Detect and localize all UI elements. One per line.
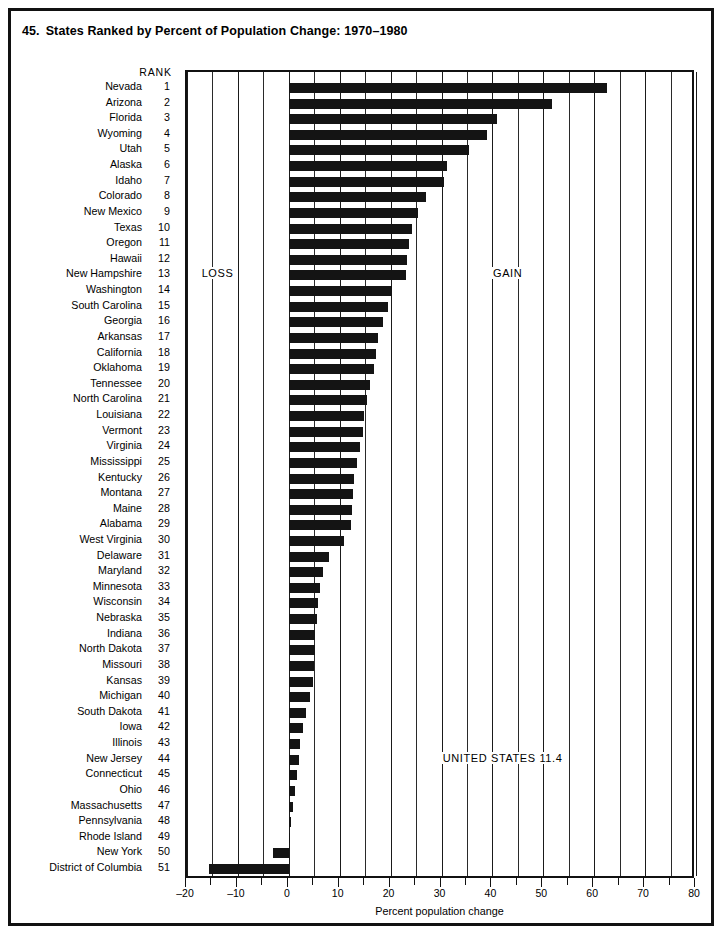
row-label: Hawaii12 (0, 252, 176, 265)
row-label: Nebraska35 (0, 611, 176, 624)
bar-maryland (289, 567, 323, 577)
bar-new-mexico (289, 208, 418, 218)
state-rank: 49 (148, 830, 170, 843)
state-rank: 26 (148, 471, 170, 484)
state-rank: 16 (148, 314, 170, 327)
state-name: Texas (114, 221, 142, 234)
bar-montana (289, 489, 354, 499)
x-tick-label-10: 10 (332, 887, 344, 899)
state-name: Alaska (110, 158, 142, 171)
x-axis-label: Percent population change (185, 905, 694, 917)
x-tick-label-60: 60 (586, 887, 598, 899)
state-rank: 10 (148, 221, 170, 234)
category-label-column: Nevada1Arizona2Florida3Wyoming4Utah5Alas… (0, 78, 176, 878)
bar-maine (289, 505, 353, 515)
state-rank: 36 (148, 627, 170, 640)
row-label: California18 (0, 346, 176, 359)
state-rank: 38 (148, 658, 170, 671)
state-name: Kansas (106, 674, 142, 687)
x-tick-15 (363, 878, 364, 885)
state-name: Virginia (107, 439, 142, 452)
state-name: District of Columbia (49, 861, 142, 874)
row-label: Colorado8 (0, 189, 176, 202)
state-name: Minnesota (93, 580, 142, 593)
row-label: Michigan40 (0, 689, 176, 702)
state-rank: 48 (148, 814, 170, 827)
row-label: Alaska6 (0, 158, 176, 171)
state-name: New York (97, 845, 142, 858)
bar-oklahoma (289, 364, 375, 374)
row-label: Wyoming4 (0, 127, 176, 140)
state-rank: 13 (148, 267, 170, 280)
state-rank: 28 (148, 502, 170, 515)
bar-north-dakota (289, 645, 315, 655)
state-name: Vermont (102, 424, 142, 437)
state-name: North Dakota (79, 642, 142, 655)
bar-georgia (289, 317, 384, 327)
state-rank: 25 (148, 455, 170, 468)
bar-kansas (289, 677, 313, 687)
bar-connecticut (289, 770, 298, 780)
state-rank: 14 (148, 283, 170, 296)
state-name: North Carolina (73, 392, 142, 405)
bar-idaho (289, 177, 444, 187)
x-tick-60 (592, 878, 593, 887)
row-label: Nevada1 (0, 80, 176, 93)
row-label: Iowa42 (0, 720, 176, 733)
plot-area: LOSS GAIN UNITED STATES 11.4 (185, 70, 694, 878)
state-name: Rhode Island (79, 830, 142, 843)
bar-indiana (289, 630, 315, 640)
x-tick-5 (312, 878, 313, 885)
x-tick-label--20: –20 (176, 887, 194, 899)
state-name: Michigan (99, 689, 142, 702)
x-tick-50 (541, 878, 542, 887)
bar-ohio (289, 786, 295, 796)
bar-illinois (289, 739, 300, 749)
annotation-loss: LOSS (199, 267, 237, 279)
rank-column-header: RANK (0, 66, 172, 78)
x-tick-45 (516, 878, 517, 885)
state-name: Delaware (97, 549, 142, 562)
state-name: Illinois (112, 736, 142, 749)
state-rank: 8 (148, 189, 170, 202)
x-tick-label-50: 50 (535, 887, 547, 899)
row-label: Oklahoma19 (0, 361, 176, 374)
row-label: Texas10 (0, 221, 176, 234)
figure-title-text: States Ranked by Percent of Population C… (46, 24, 408, 38)
state-name: New Jersey (86, 752, 142, 765)
bar-washington (289, 286, 392, 296)
state-name: Ohio (119, 783, 142, 796)
bar-kentucky (289, 474, 355, 484)
state-name: Indiana (107, 627, 142, 640)
row-label: New Hampshire13 (0, 267, 176, 280)
bar-michigan (289, 692, 310, 702)
bar-hawaii (289, 255, 408, 265)
row-label: Kentucky26 (0, 471, 176, 484)
bar-north-carolina (289, 395, 367, 405)
state-rank: 18 (148, 346, 170, 359)
state-name: Oregon (106, 236, 142, 249)
state-rank: 45 (148, 767, 170, 780)
state-rank: 33 (148, 580, 170, 593)
state-name: Montana (100, 486, 142, 499)
state-name: Kentucky (98, 471, 142, 484)
bar-delaware (289, 552, 329, 562)
state-rank: 47 (148, 799, 170, 812)
row-label: Illinois43 (0, 736, 176, 749)
state-rank: 27 (148, 486, 170, 499)
row-label: Montana27 (0, 486, 176, 499)
bar-louisiana (289, 411, 364, 421)
state-rank: 4 (148, 127, 170, 140)
state-name: Maine (113, 502, 142, 515)
row-label: Louisiana22 (0, 408, 176, 421)
row-label: Virginia24 (0, 439, 176, 452)
state-rank: 23 (148, 424, 170, 437)
x-tick-25 (414, 878, 415, 885)
bar-wisconsin (289, 598, 318, 608)
state-name: Colorado (99, 189, 142, 202)
state-rank: 35 (148, 611, 170, 624)
row-label: Maryland32 (0, 564, 176, 577)
state-name: Connecticut (86, 767, 142, 780)
state-rank: 20 (148, 377, 170, 390)
row-label: Connecticut45 (0, 767, 176, 780)
